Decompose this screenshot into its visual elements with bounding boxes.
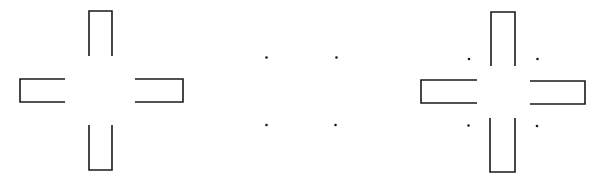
dot bbox=[468, 58, 471, 61]
panel-four-dots bbox=[265, 56, 338, 126]
dot bbox=[265, 124, 268, 127]
arm-bottom bbox=[490, 118, 515, 172]
arm-top bbox=[89, 11, 112, 56]
arm-bottom bbox=[89, 125, 112, 170]
arm-top bbox=[491, 12, 515, 66]
dot bbox=[536, 125, 539, 128]
dot bbox=[467, 124, 470, 127]
dot bbox=[265, 56, 268, 59]
arm-right bbox=[135, 79, 183, 102]
dot bbox=[536, 58, 539, 61]
dot bbox=[334, 124, 337, 127]
dot bbox=[335, 56, 338, 59]
arm-left bbox=[20, 79, 65, 102]
arm-left bbox=[421, 80, 477, 103]
figure-canvas bbox=[0, 0, 599, 183]
panel-cross-with-dots bbox=[421, 12, 585, 172]
panel-cross-arms bbox=[20, 11, 183, 170]
arm-right bbox=[530, 81, 585, 104]
